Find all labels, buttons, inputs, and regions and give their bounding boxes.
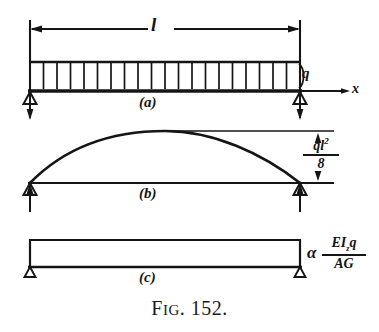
panel-b-caption: (b) bbox=[139, 186, 157, 201]
shear-deflection-numerator: EIzq bbox=[322, 236, 366, 253]
figure-caption-f: F bbox=[151, 297, 163, 319]
x-axis-arrowhead bbox=[341, 88, 350, 94]
max-moment-denominator: 8 bbox=[303, 157, 339, 171]
shear-deflection-alpha: α bbox=[307, 243, 316, 263]
shear-deflection-formula: EIzq AG bbox=[322, 236, 366, 271]
panel-a-caption: (a) bbox=[139, 95, 157, 110]
x-axis-label: x bbox=[352, 82, 359, 96]
figure-caption-number: . 152. bbox=[180, 297, 228, 319]
panel-c-group bbox=[25, 239, 306, 277]
dimension-arrowhead-left bbox=[30, 26, 42, 33]
panel-b-group bbox=[24, 131, 335, 212]
load-hatch-lines bbox=[44, 62, 287, 89]
support-a-right bbox=[294, 92, 307, 120]
max-moment-numerator: ql2 bbox=[303, 137, 339, 153]
support-c-right bbox=[295, 267, 306, 277]
bending-moment-parabola bbox=[30, 131, 300, 183]
support-c-left bbox=[25, 267, 36, 277]
shear-deflection-denominator: AG bbox=[322, 257, 366, 271]
support-b-right bbox=[294, 183, 307, 212]
load-intensity-label: q bbox=[302, 66, 310, 81]
max-moment-exponent: 2 bbox=[324, 136, 329, 146]
figure-caption: FIG. 152. bbox=[0, 297, 379, 320]
shear-deflection-q: q bbox=[349, 235, 356, 250]
max-moment-formula: ql2 8 bbox=[303, 137, 339, 171]
span-length-label: l bbox=[151, 15, 156, 34]
support-b-left bbox=[24, 183, 37, 212]
shear-deflection-ei: EI bbox=[332, 235, 347, 250]
panel-c-caption: (c) bbox=[139, 270, 156, 285]
dimension-arrowhead-right bbox=[288, 26, 300, 33]
support-a-left bbox=[24, 92, 37, 120]
figure-caption-ig: IG bbox=[163, 302, 180, 318]
